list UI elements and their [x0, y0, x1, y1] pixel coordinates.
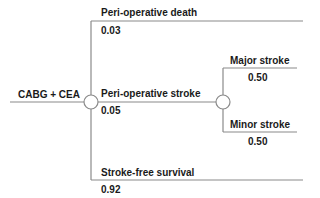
branch-stroke-label: Peri-operative stroke: [101, 88, 201, 100]
branch-death-probability: 0.03: [101, 25, 120, 37]
sub-branch-major-probability: 0.50: [248, 72, 267, 84]
sub-branch-minor-label: Minor stroke: [230, 119, 290, 131]
branch-survival-label: Stroke-free survival: [101, 167, 194, 179]
root-label: CABG + CEA: [18, 89, 80, 101]
branch-stroke-probability: 0.05: [101, 105, 120, 117]
sub-branch-major-label: Major stroke: [230, 55, 289, 67]
sub-branch-minor-probability: 0.50: [248, 136, 267, 148]
branch-survival-probability: 0.92: [101, 184, 120, 196]
chance-node-2: [216, 95, 230, 109]
chance-node-1: [84, 95, 98, 109]
branch-death-label: Peri-operative death: [101, 7, 197, 19]
